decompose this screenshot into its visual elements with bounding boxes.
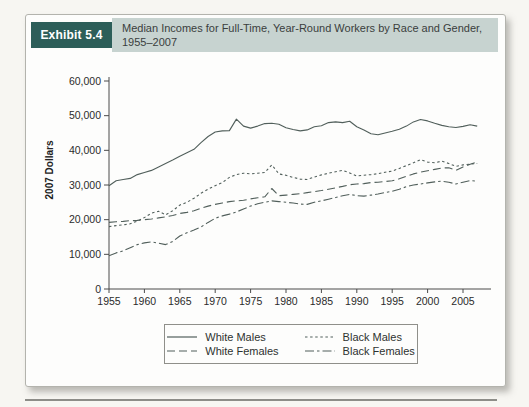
svg-text:60,000: 60,000 bbox=[69, 75, 101, 87]
line-chart: 010,00020,00030,00040,00050,00060,000195… bbox=[26, 65, 503, 320]
svg-text:1965: 1965 bbox=[168, 295, 192, 307]
svg-text:1955: 1955 bbox=[97, 295, 121, 307]
legend-label: Black Males bbox=[343, 331, 402, 343]
svg-text:40,000: 40,000 bbox=[69, 144, 101, 156]
exhibit-label: Exhibit 5.4 bbox=[31, 22, 112, 48]
exhibit-title: Median Incomes for Full-Time, Year-Round… bbox=[112, 18, 498, 52]
svg-text:2005: 2005 bbox=[451, 295, 475, 307]
svg-text:20,000: 20,000 bbox=[69, 213, 101, 225]
svg-text:1985: 1985 bbox=[310, 295, 334, 307]
dotted-line-swatch-icon bbox=[305, 334, 335, 340]
chart-area: 010,00020,00030,00040,00050,00060,000195… bbox=[26, 65, 503, 320]
exhibit-card: Median Incomes for Full-Time, Year-Round… bbox=[25, 14, 506, 387]
svg-text:0: 0 bbox=[95, 283, 101, 295]
legend-item-black-males: Black Males bbox=[305, 331, 415, 343]
svg-text:1980: 1980 bbox=[274, 295, 298, 307]
svg-text:2000: 2000 bbox=[416, 295, 440, 307]
svg-text:1960: 1960 bbox=[133, 295, 157, 307]
chart-legend: White Males Black Males White Females Bl… bbox=[164, 324, 418, 364]
legend-item-white-males: White Males bbox=[167, 331, 278, 343]
legend-item-white-females: White Females bbox=[167, 345, 278, 357]
legend-item-black-females: Black Females bbox=[305, 345, 415, 357]
svg-text:1975: 1975 bbox=[239, 295, 263, 307]
dashed-line-swatch-icon bbox=[167, 348, 197, 354]
svg-text:2007 Dollars: 2007 Dollars bbox=[44, 140, 55, 199]
legend-label: Black Females bbox=[343, 345, 415, 357]
page-divider bbox=[25, 399, 497, 401]
svg-text:50,000: 50,000 bbox=[69, 109, 101, 121]
legend-label: White Females bbox=[205, 345, 278, 357]
svg-text:10,000: 10,000 bbox=[69, 248, 101, 260]
svg-text:30,000: 30,000 bbox=[69, 179, 101, 191]
solid-line-swatch-icon bbox=[167, 334, 197, 340]
svg-text:1995: 1995 bbox=[381, 295, 405, 307]
legend-label: White Males bbox=[205, 331, 266, 343]
svg-text:1970: 1970 bbox=[204, 295, 228, 307]
dashdot-line-swatch-icon bbox=[305, 348, 335, 354]
svg-text:1990: 1990 bbox=[345, 295, 369, 307]
